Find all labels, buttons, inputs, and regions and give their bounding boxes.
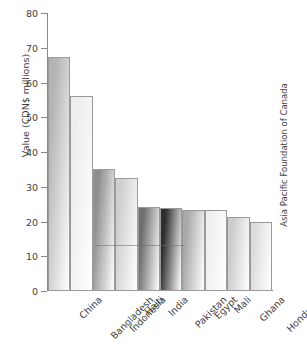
x-axis-label-india: India [166, 294, 190, 318]
chart-title [60, 0, 260, 4]
y-axis-tick [41, 152, 47, 153]
bar-honduras[interactable] [250, 222, 272, 292]
y-axis-tick-label: 60 [0, 82, 38, 83]
y-axis-tick-label: 70 [0, 47, 38, 48]
plot-area [48, 13, 272, 291]
y-axis-tick [41, 256, 47, 257]
y-axis-tick-label: 50 [0, 117, 38, 118]
y-axis-tick [41, 291, 47, 292]
x-axis-label-china: China [77, 294, 104, 321]
bar-india[interactable] [138, 207, 160, 291]
y-axis-tick-label: 30 [0, 186, 38, 187]
y-axis-tick-label: 10 [0, 256, 38, 257]
bar-haiti[interactable] [115, 178, 137, 291]
scan-artifact-line [96, 245, 184, 246]
bar-chart-figure: Value (CDN$ millions) 01020304050607080 … [0, 0, 307, 356]
bar-china[interactable] [48, 57, 70, 291]
y-axis-tick [41, 222, 47, 223]
y-axis-tick [41, 117, 47, 118]
y-axis-tick [41, 48, 47, 49]
bar-egypt[interactable] [182, 210, 204, 291]
y-axis-tick [41, 13, 47, 14]
y-axis-tick-label: 20 [0, 221, 38, 222]
y-axis-tick-label: 40 [0, 152, 38, 153]
bar-pakistan[interactable] [160, 208, 182, 291]
x-axis-label-ghana: Ghana [258, 294, 288, 324]
bar-indonesia[interactable] [93, 169, 115, 291]
y-axis-tick [41, 83, 47, 84]
x-axis-label-honduras: Honduras [284, 294, 307, 334]
bar-bangladesh[interactable] [70, 96, 92, 291]
y-axis-tick-label: 0 [0, 291, 38, 292]
y-axis-tick-label: 80 [0, 13, 38, 14]
x-axis-labels: ChinaBangladeshIndonesiaHaitiIndiaPakist… [48, 292, 272, 354]
source-credit: Asia Pacific Foundation of Canada [279, 70, 289, 240]
bar-mali[interactable] [205, 210, 227, 291]
y-axis-tick [41, 187, 47, 188]
bar-ghana[interactable] [227, 217, 249, 291]
